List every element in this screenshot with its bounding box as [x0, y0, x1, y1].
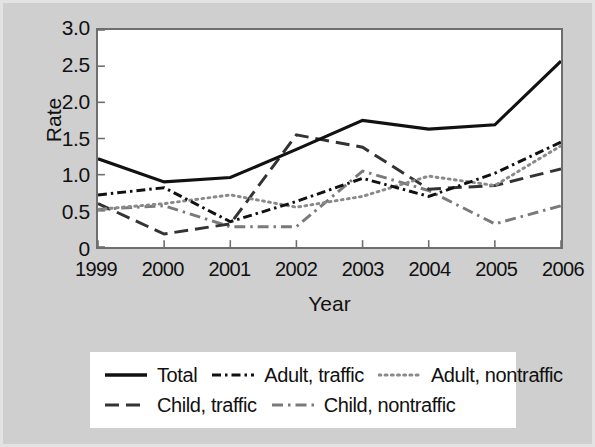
legend-item-total[interactable]: Total — [104, 364, 197, 387]
legend-swatch-child-nontraffic-icon — [271, 398, 315, 412]
legend-swatch-child-traffic-icon — [104, 398, 148, 412]
x-axis-tick-label: 2005 — [464, 258, 528, 281]
x-axis-tick-label: 2001 — [197, 258, 261, 281]
x-axis-title: Year — [96, 292, 563, 316]
legend-swatch-adult-traffic-icon — [211, 368, 255, 382]
x-axis-tick-label: 1999 — [64, 258, 128, 281]
legend-label: Total — [157, 364, 197, 387]
legend-row: Child, trafficChild, nontraffic — [104, 390, 502, 420]
y-axis-tick-label: 0.5 — [44, 201, 90, 222]
legend-label: Child, traffic — [157, 394, 257, 417]
y-axis-tick-label: 3.0 — [44, 17, 90, 38]
legend-label: Child, nontraffic — [324, 394, 456, 417]
legend-label: Adult, nontraffic — [431, 364, 563, 387]
y-axis-title: Rate — [42, 60, 66, 180]
x-axis-tick-label: 2006 — [531, 258, 595, 281]
legend-row: TotalAdult, trafficAdult, nontraffic — [104, 360, 502, 390]
legend-swatch-total-icon — [104, 368, 148, 382]
figure-container: 3.02.52.01.51.00.50 Rate 199920002001200… — [0, 0, 595, 447]
legend-swatch-adult-nontraffic-icon — [378, 368, 422, 382]
x-axis-tick-label: 2000 — [131, 258, 195, 281]
legend-item-adult-traffic[interactable]: Adult, traffic — [211, 364, 364, 387]
x-axis-tick-label: 2004 — [398, 258, 462, 281]
legend-label: Adult, traffic — [264, 364, 364, 387]
legend: TotalAdult, trafficAdult, nontrafficChil… — [90, 352, 516, 428]
x-axis-tick-label: 2002 — [264, 258, 328, 281]
legend-item-adult-nontraffic[interactable]: Adult, nontraffic — [378, 364, 563, 387]
x-axis-tick-label: 2003 — [331, 258, 395, 281]
legend-item-child-traffic[interactable]: Child, traffic — [104, 394, 257, 417]
legend-item-child-nontraffic[interactable]: Child, nontraffic — [271, 394, 456, 417]
y-axis-tick-label: 0 — [44, 238, 90, 259]
